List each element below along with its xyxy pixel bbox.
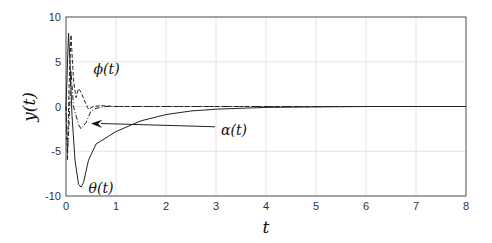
- y-tick-label: 5: [55, 56, 61, 68]
- arrow-head-icon: [91, 120, 102, 128]
- y-tick-label: -10: [45, 190, 61, 202]
- x-tick-label: 7: [413, 200, 419, 212]
- annotation-arrow-line: [101, 124, 215, 127]
- x-tick-label: 1: [113, 200, 119, 212]
- y-tick-label: -5: [51, 145, 61, 157]
- x-tick-label: 5: [313, 200, 319, 212]
- annotation-label: ϕ(t): [94, 61, 120, 77]
- x-tick-label: 2: [163, 200, 169, 212]
- y-tick-label: 10: [49, 11, 61, 23]
- x-tick-label: 6: [363, 200, 369, 212]
- x-tick-label: 0: [63, 200, 69, 212]
- annotation-label: θ(t): [89, 180, 114, 196]
- y-axis-label: y(t): [19, 92, 39, 123]
- x-tick-labels: 012345678: [63, 200, 469, 212]
- line-chart: 012345678 1050-5-10 ϕ(t)α(t)θ(t) t y(t): [0, 0, 492, 243]
- x-tick-label: 8: [463, 200, 469, 212]
- x-tick-label: 4: [263, 200, 269, 212]
- x-tick-label: 3: [213, 200, 219, 212]
- y-tick-label: 0: [55, 101, 61, 113]
- x-axis-label: t: [263, 217, 270, 237]
- annotation-label: α(t): [221, 122, 247, 138]
- y-tick-labels: 1050-5-10: [45, 11, 61, 202]
- annotations: ϕ(t)α(t)θ(t): [89, 61, 248, 196]
